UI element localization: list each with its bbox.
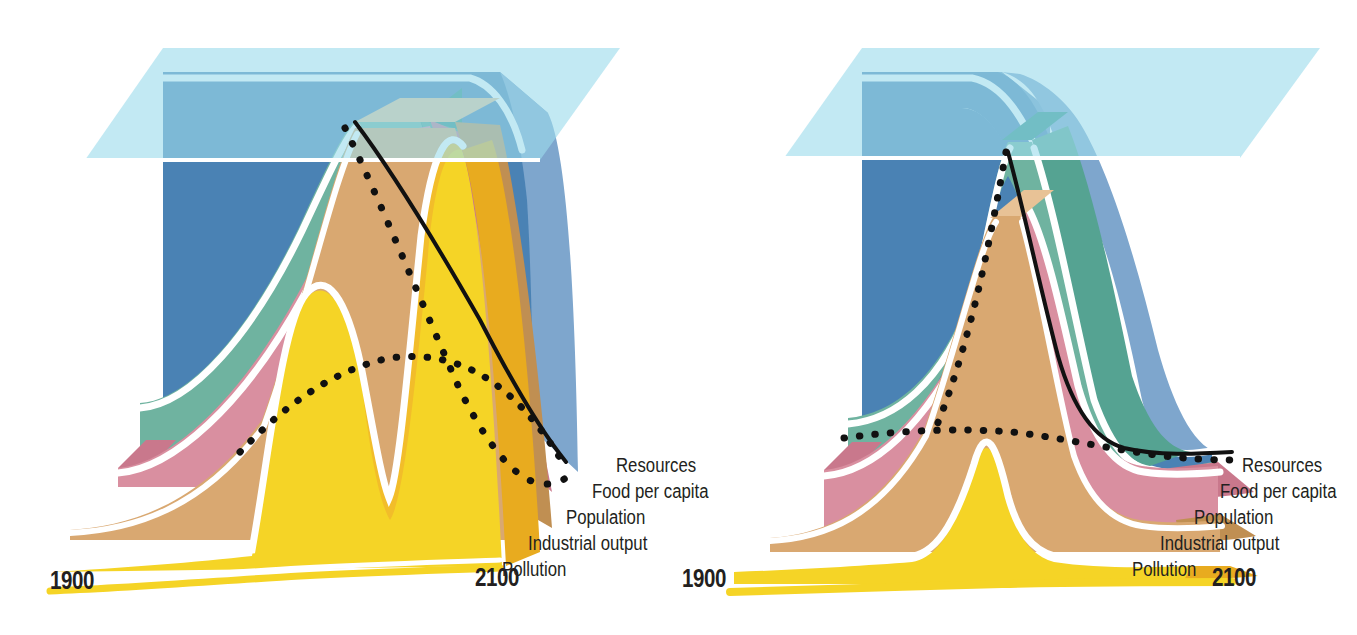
cut-plane-surface: [784, 48, 1320, 158]
legend-label-industrial-output-left[interactable]: Industrial output: [528, 534, 647, 554]
axis-start-label-left: 1900: [50, 568, 94, 593]
legend-label-food-per-capita-right[interactable]: Food per capita: [1220, 482, 1337, 502]
legend-label-population-right[interactable]: Population: [1194, 508, 1273, 528]
legend-label-pollution-left[interactable]: Pollution: [502, 560, 566, 580]
world3-figure: 1900 2100 Resources Food per capita Popu…: [0, 0, 1357, 635]
cut-plane: [784, 48, 1320, 158]
legend-label-industrial-output-right[interactable]: Industrial output: [1160, 534, 1279, 554]
chart-panel-left[interactable]: 1900 2100 Resources Food per capita Popu…: [0, 0, 700, 635]
legend-label-pollution-right[interactable]: Pollution: [1132, 560, 1196, 580]
axis-end-label-right: 2100: [1212, 565, 1256, 590]
legend-label-resources-right[interactable]: Resources: [1242, 456, 1322, 476]
chart-panel-right[interactable]: 1900 2100 Resources Food per capita Popu…: [672, 0, 1357, 635]
legend-label-population-left[interactable]: Population: [566, 508, 645, 528]
axis-start-label-right: 1900: [682, 566, 726, 591]
